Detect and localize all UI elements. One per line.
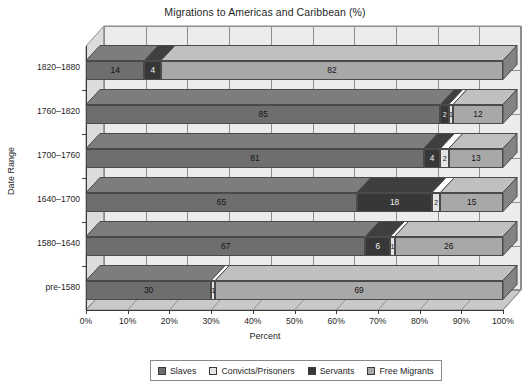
- bars-layer: 1440828521128142136518215676126300169: [0, 0, 530, 388]
- bar-segment[interactable]: 2: [432, 193, 440, 212]
- bar-segment[interactable]: 4: [424, 149, 441, 168]
- legend-swatch-icon: [158, 367, 166, 375]
- legend-item[interactable]: Free Migrants: [367, 366, 433, 376]
- bar-segment[interactable]: 18: [357, 193, 432, 212]
- bar-segment[interactable]: 14: [86, 61, 144, 80]
- bar-segment-value-label: 4: [424, 149, 441, 168]
- bar-segment[interactable]: 26: [395, 237, 503, 256]
- legend-label: Convicts/Prisoners: [221, 366, 294, 376]
- bar-segment[interactable]: 82: [161, 61, 503, 80]
- legend-swatch-icon: [367, 367, 375, 375]
- bar-segment-value-label: 85: [86, 105, 440, 124]
- bar-segment[interactable]: 65: [86, 193, 357, 212]
- plot-area: 0%10%20%30%40%50%60%70%80%90%100% 1820–1…: [0, 0, 530, 388]
- bar-segment-value-label: 65: [86, 193, 357, 212]
- bar-segment-value-label: 6: [365, 237, 390, 256]
- chart-legend: SlavesConvicts/PrisonersServantsFree Mig…: [150, 360, 442, 381]
- bar-segment-value-label: 2: [440, 149, 448, 168]
- bar-segment[interactable]: 2: [440, 149, 448, 168]
- legend-label: Slaves: [170, 366, 196, 376]
- bar-segment-value-label: 15: [440, 193, 503, 212]
- bar-segment[interactable]: 81: [86, 149, 424, 168]
- bar-segment-value-label: 30: [86, 281, 211, 300]
- bar-segment[interactable]: 13: [449, 149, 503, 168]
- bar-segment-value-label: 2: [440, 105, 448, 124]
- legend-swatch-icon: [209, 367, 217, 375]
- bar-segment-value-label: 18: [357, 193, 432, 212]
- bar-segment-value-label: 4: [144, 61, 161, 80]
- legend-swatch-icon: [308, 367, 316, 375]
- bar-segment[interactable]: 15: [440, 193, 503, 212]
- bar-segment-value-label: 67: [86, 237, 365, 256]
- bar-segment-value-label: 14: [86, 61, 144, 80]
- bar-segment-value-label: 81: [86, 149, 424, 168]
- bar-segment[interactable]: 30: [86, 281, 211, 300]
- bar-segment[interactable]: 6: [365, 237, 390, 256]
- bar-segment-value-label: 69: [215, 281, 503, 300]
- bar-segment[interactable]: 12: [453, 105, 503, 124]
- legend-item[interactable]: Convicts/Prisoners: [209, 366, 294, 376]
- bar-segment[interactable]: 2: [440, 105, 448, 124]
- bar-segment[interactable]: 4: [144, 61, 161, 80]
- bar-segment[interactable]: 85: [86, 105, 440, 124]
- bar-segment-value-label: 12: [453, 105, 503, 124]
- bar-segment-value-label: 2: [432, 193, 440, 212]
- legend-item[interactable]: Slaves: [158, 366, 196, 376]
- bar-segment[interactable]: 67: [86, 237, 365, 256]
- bar-segment-value-label: 26: [395, 237, 503, 256]
- chart-root: Migrations to Americas and Caribbean (%)…: [0, 0, 530, 388]
- legend-label: Servants: [320, 366, 355, 376]
- bar-segment-value-label: 13: [449, 149, 503, 168]
- bar-segment-value-label: 82: [161, 61, 503, 80]
- bar-segment[interactable]: 69: [215, 281, 503, 300]
- legend-label: Free Migrants: [379, 366, 433, 376]
- legend-item[interactable]: Servants: [308, 366, 355, 376]
